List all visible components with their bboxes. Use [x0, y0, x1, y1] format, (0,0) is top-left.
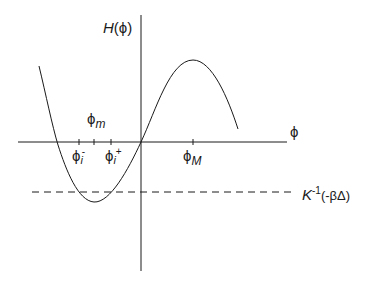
phi-i-plus-label: ϕi+: [105, 146, 122, 166]
phi-M-label: ϕM: [183, 147, 201, 168]
phi-m-label: ϕm: [87, 110, 105, 131]
phase-response-diagram: H(ϕ) ϕ ϕm ϕi- ϕi+ ϕM K-1(-βΔ): [0, 0, 373, 285]
phi-i-minus-label: ϕi-: [72, 146, 85, 166]
threshold-label: K-1(-βΔ): [302, 185, 350, 203]
y-axis-label: H(ϕ): [103, 19, 132, 36]
h-curve: [39, 60, 238, 202]
x-axis-label: ϕ: [290, 123, 298, 140]
